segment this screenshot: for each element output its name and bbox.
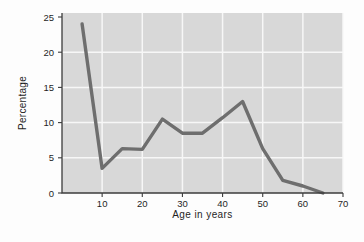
x-tick-label: 40	[217, 198, 228, 209]
y-tick-label: 5	[49, 152, 54, 163]
x-tick-label: 30	[177, 198, 188, 209]
y-tick-label: 0	[49, 188, 54, 199]
x-tick-label: 20	[137, 198, 148, 209]
x-tick-label: 10	[97, 198, 108, 209]
y-tick-label: 20	[43, 47, 54, 58]
chart-canvas: 102030405060700510152025	[0, 0, 364, 242]
x-tick-label: 50	[257, 198, 268, 209]
y-tick-label: 10	[43, 117, 54, 128]
chart-figure: 102030405060700510152025 Percentage Age …	[0, 0, 364, 242]
x-tick-label: 60	[298, 198, 309, 209]
y-axis-title: Percentage	[17, 76, 28, 130]
x-axis-title: Age in years	[62, 209, 343, 220]
x-tick-label: 70	[338, 198, 349, 209]
y-tick-label: 25	[43, 12, 54, 23]
y-tick-label: 15	[43, 82, 54, 93]
